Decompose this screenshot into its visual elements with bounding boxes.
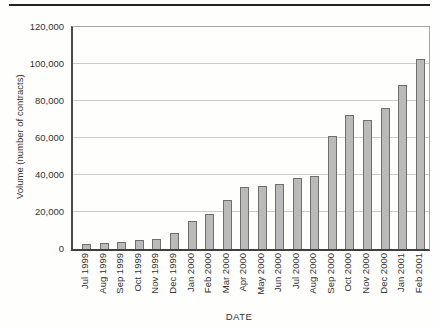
x-tick: Sep 1999 — [111, 253, 129, 311]
x-tick-label-oct-1999: Oct 1999 — [132, 253, 143, 292]
x-tick: Jan 2000 — [181, 253, 199, 311]
scanned-figure-page: Volume (number of contracts) 020,00040,0… — [0, 0, 438, 326]
x-tick: Mar 2000 — [216, 253, 234, 311]
x-tick-label-oct-2000: Oct 2000 — [342, 253, 353, 292]
x-tick: Dec 1999 — [164, 253, 182, 311]
bar-jan-2001 — [398, 85, 407, 249]
x-tick: Sep 2000 — [322, 253, 340, 311]
bar-feb-2000 — [205, 214, 214, 249]
bar-nov-2000 — [363, 120, 372, 249]
x-tick: Nov 1999 — [146, 253, 164, 311]
y-tick-label-120000: 120,000 — [0, 21, 64, 32]
bar-aug-2000 — [310, 176, 319, 249]
x-tick: Apr 2000 — [234, 253, 252, 311]
bar-apr-2000 — [240, 187, 249, 249]
bar-series — [73, 27, 429, 249]
x-tick-label-feb-2001: Feb 2001 — [413, 253, 424, 293]
bar-mar-2000 — [223, 200, 232, 249]
x-tick: Aug 2000 — [304, 253, 322, 311]
bar-dec-2000 — [381, 108, 390, 249]
x-tick: Oct 1999 — [129, 253, 147, 311]
x-tick: Oct 2000 — [339, 253, 357, 311]
x-tick-label-sep-2000: Sep 2000 — [325, 253, 336, 294]
bar-aug-1999 — [100, 243, 109, 249]
x-tick-label-jul-2000: Jul 2000 — [290, 253, 301, 289]
x-tick-label-may-2000: May 2000 — [255, 253, 266, 295]
x-tick: Dec 2000 — [374, 253, 392, 311]
y-axis-tick-labels: 020,00040,00060,00080,000100,000120,000 — [0, 26, 64, 248]
bar-sep-2000 — [328, 136, 337, 249]
x-tick: Jan 2001 — [392, 253, 410, 311]
x-tick-label-sep-1999: Sep 1999 — [114, 253, 125, 294]
volume-bar-chart-plot-area — [71, 26, 430, 251]
x-tick: Jul 2000 — [287, 253, 305, 311]
x-tick-label-dec-2000: Dec 2000 — [378, 253, 389, 294]
x-tick: Jul 1999 — [76, 253, 94, 311]
x-axis-title: DATE — [61, 311, 417, 322]
x-tick-label-dec-1999: Dec 1999 — [167, 253, 178, 294]
x-tick: Nov 2000 — [357, 253, 375, 311]
x-tick-label-jun-2000: Jun 2000 — [272, 253, 283, 292]
y-tick-label-40000: 40,000 — [0, 169, 64, 180]
bar-jul-2000 — [293, 178, 302, 249]
x-tick-label-jan-2001: Jan 2001 — [395, 253, 406, 292]
x-tick-label-mar-2000: Mar 2000 — [220, 253, 231, 293]
bar-may-2000 — [258, 186, 267, 249]
bar-feb-2001 — [416, 59, 425, 249]
y-tick-label-20000: 20,000 — [0, 206, 64, 217]
x-tick: Jun 2000 — [269, 253, 287, 311]
bar-oct-2000 — [345, 115, 354, 249]
x-tick: Feb 2000 — [199, 253, 217, 311]
bar-sep-1999 — [117, 242, 126, 249]
x-tick-label-aug-2000: Aug 2000 — [307, 253, 318, 294]
bar-jun-2000 — [275, 184, 284, 249]
y-tick-label-80000: 80,000 — [0, 95, 64, 106]
bar-dec-1999 — [170, 233, 179, 249]
x-tick-label-feb-2000: Feb 2000 — [202, 253, 213, 293]
y-tick-label-100000: 100,000 — [0, 58, 64, 69]
figure-top-rule — [9, 4, 430, 6]
y-tick-label-60000: 60,000 — [0, 132, 64, 143]
x-axis-tick-labels: Jul 1999Aug 1999Sep 1999Oct 1999Nov 1999… — [76, 253, 427, 311]
bar-jan-2000 — [188, 221, 197, 249]
bar-oct-1999 — [135, 240, 144, 249]
bar-nov-1999 — [152, 239, 161, 249]
x-tick: May 2000 — [251, 253, 269, 311]
y-tick-label-0: 0 — [0, 243, 64, 254]
x-tick-label-jan-2000: Jan 2000 — [185, 253, 196, 292]
x-tick: Feb 2001 — [409, 253, 427, 311]
x-tick-label-nov-1999: Nov 1999 — [149, 253, 160, 294]
bar-jul-1999 — [82, 244, 91, 249]
x-tick-label-nov-2000: Nov 2000 — [360, 253, 371, 294]
x-tick: Aug 1999 — [94, 253, 112, 311]
x-tick-label-aug-1999: Aug 1999 — [97, 253, 108, 294]
x-tick-label-apr-2000: Apr 2000 — [237, 253, 248, 292]
x-tick-label-jul-1999: Jul 1999 — [79, 253, 90, 289]
